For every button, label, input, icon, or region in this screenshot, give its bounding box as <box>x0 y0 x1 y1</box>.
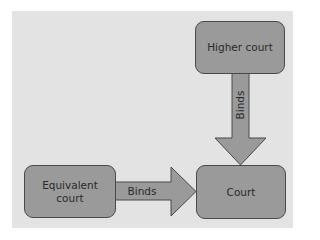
node-court: Court <box>196 165 286 219</box>
node-higher-court-label: Higher court <box>207 41 273 54</box>
node-court-label: Court <box>227 186 256 199</box>
edge-label-higher-to-court: Binds <box>234 88 246 122</box>
node-equivalent-court-label: Equivalent court <box>40 179 100 205</box>
node-higher-court: Higher court <box>195 21 285 74</box>
edge-label-equivalent-to-court: Binds <box>125 185 159 197</box>
node-equivalent-court: Equivalent court <box>24 165 116 218</box>
